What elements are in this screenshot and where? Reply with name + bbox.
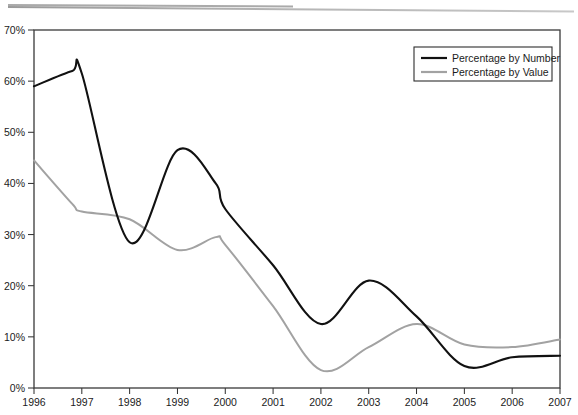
x-axis-label: 2003 [357,396,381,408]
chart-legend: Percentage by Number Percentage by Value [414,47,560,81]
legend-label-percentage-by-value: Percentage by Value [452,66,549,78]
y-axis-label: 10% [4,331,25,343]
legend-label-percentage-by-number: Percentage by Number [452,52,560,64]
y-axis-tick-group: 0%10%20%30%40%50%60%70% [4,24,34,394]
x-axis-label: 2006 [501,396,525,408]
x-axis-label: 1998 [118,396,142,408]
x-axis-label: 2007 [548,396,572,408]
x-axis-tick-group: 1996199719981999200020012002200320042005… [22,388,572,408]
y-axis-label: 40% [4,177,25,189]
y-axis-label: 20% [4,280,25,292]
series-line-percentage-by-value [34,160,560,371]
y-axis-label: 30% [4,229,25,241]
plot-frame [34,30,560,388]
x-axis-label: 2002 [309,396,333,408]
x-axis-label: 2001 [261,396,285,408]
x-axis-label: 1996 [22,396,46,408]
chart-container: 0%10%20%30%40%50%60%70% 1996199719981999… [0,0,578,415]
y-axis-label: 60% [4,75,25,87]
x-axis-label: 2000 [214,396,238,408]
x-axis-label: 2005 [453,396,477,408]
y-axis-label: 50% [4,126,25,138]
y-axis-label: 0% [10,382,25,394]
y-axis-label: 70% [4,24,25,36]
x-axis-label: 2004 [405,396,429,408]
series-line-percentage-by-number [34,60,560,368]
x-axis-label: 1997 [70,396,94,408]
x-axis-label: 1999 [166,396,190,408]
line-chart: 0%10%20%30%40%50%60%70% 1996199719981999… [0,0,578,415]
